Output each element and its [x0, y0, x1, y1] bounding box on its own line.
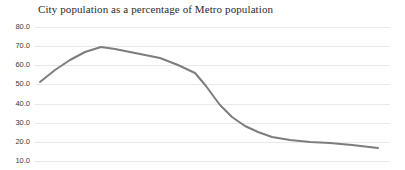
line-series-city-share [40, 47, 378, 148]
y-axis-tick-label: 60.0 [15, 61, 30, 69]
y-axis-tick-label: 40.0 [15, 100, 30, 108]
y-axis-tick-label: 10.0 [15, 157, 30, 165]
y-axis-tick-label: 70.0 [15, 42, 30, 50]
line-series-layer [0, 0, 405, 170]
chart-container: City population as a percentage of Metro… [0, 0, 405, 170]
y-axis-tick-label: 30.0 [15, 119, 30, 127]
y-axis-tick-label: 50.0 [15, 80, 30, 88]
y-axis-tick-label: 20.0 [15, 138, 30, 146]
y-axis-tick-label: 80.0 [15, 23, 30, 31]
y-axis: 80.070.060.050.040.030.020.010.0 [0, 0, 33, 170]
plot-area [0, 0, 405, 170]
